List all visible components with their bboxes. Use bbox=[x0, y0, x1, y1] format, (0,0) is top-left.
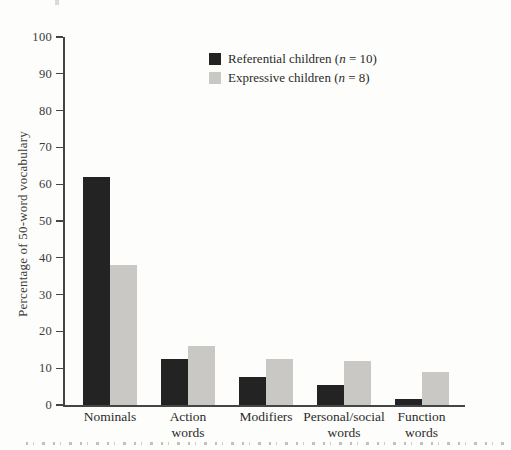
bar-expressive-function-words bbox=[422, 372, 449, 405]
legend-label-expressive: Expressive children (n = 8) bbox=[228, 70, 370, 86]
clipped-caption-fragment bbox=[26, 442, 504, 447]
y-tick-80 bbox=[56, 110, 63, 111]
legend: Referential children (n = 10) Expressive… bbox=[209, 50, 377, 88]
x-axis-line bbox=[63, 405, 465, 407]
legend-item-referential: Referential children (n = 10) bbox=[209, 50, 377, 68]
y-tick-label-80: 80 bbox=[18, 104, 52, 118]
y-tick-label-30: 30 bbox=[18, 288, 52, 302]
y-tick-label-10: 10 bbox=[18, 361, 52, 375]
y-tick-100 bbox=[56, 36, 63, 37]
y-tick-60 bbox=[56, 184, 63, 185]
legend-label-referential: Referential children (n = 10) bbox=[228, 51, 377, 67]
y-tick-label-0: 0 bbox=[18, 398, 52, 412]
y-tick-20 bbox=[56, 331, 63, 332]
y-tick-70 bbox=[56, 147, 63, 148]
y-tick-40 bbox=[56, 257, 63, 258]
y-axis-line bbox=[63, 37, 65, 407]
y-tick-label-20: 20 bbox=[18, 324, 52, 338]
y-tick-label-90: 90 bbox=[18, 67, 52, 81]
y-tick-30 bbox=[56, 294, 63, 295]
y-tick-label-50: 50 bbox=[18, 214, 52, 228]
bar-expressive-action-words bbox=[188, 346, 215, 405]
y-tick-0 bbox=[56, 404, 63, 405]
bar-expressive-modifiers bbox=[266, 359, 293, 405]
figure-canvas: Percentage of 50-word vocabulary 0102030… bbox=[0, 0, 511, 450]
legend-swatch-expressive-icon bbox=[209, 72, 221, 84]
bar-referential-nominals bbox=[83, 177, 110, 405]
category-label-function-words: Functionwords bbox=[362, 409, 482, 440]
y-tick-50 bbox=[56, 220, 63, 221]
bar-referential-personal-social-words bbox=[317, 385, 344, 405]
scan-artifact-mark bbox=[55, 0, 59, 5]
y-tick-label-100: 100 bbox=[18, 30, 52, 44]
bar-referential-modifiers bbox=[239, 377, 266, 405]
y-tick-10 bbox=[56, 368, 63, 369]
bar-referential-action-words bbox=[161, 359, 188, 405]
bar-expressive-personal-social-words bbox=[344, 361, 371, 405]
legend-item-expressive: Expressive children (n = 8) bbox=[209, 69, 377, 87]
y-tick-label-40: 40 bbox=[18, 251, 52, 265]
legend-swatch-referential-icon bbox=[209, 53, 221, 65]
bar-expressive-nominals bbox=[110, 265, 137, 405]
y-tick-label-70: 70 bbox=[18, 140, 52, 154]
y-tick-90 bbox=[56, 73, 63, 74]
y-tick-label-60: 60 bbox=[18, 177, 52, 191]
